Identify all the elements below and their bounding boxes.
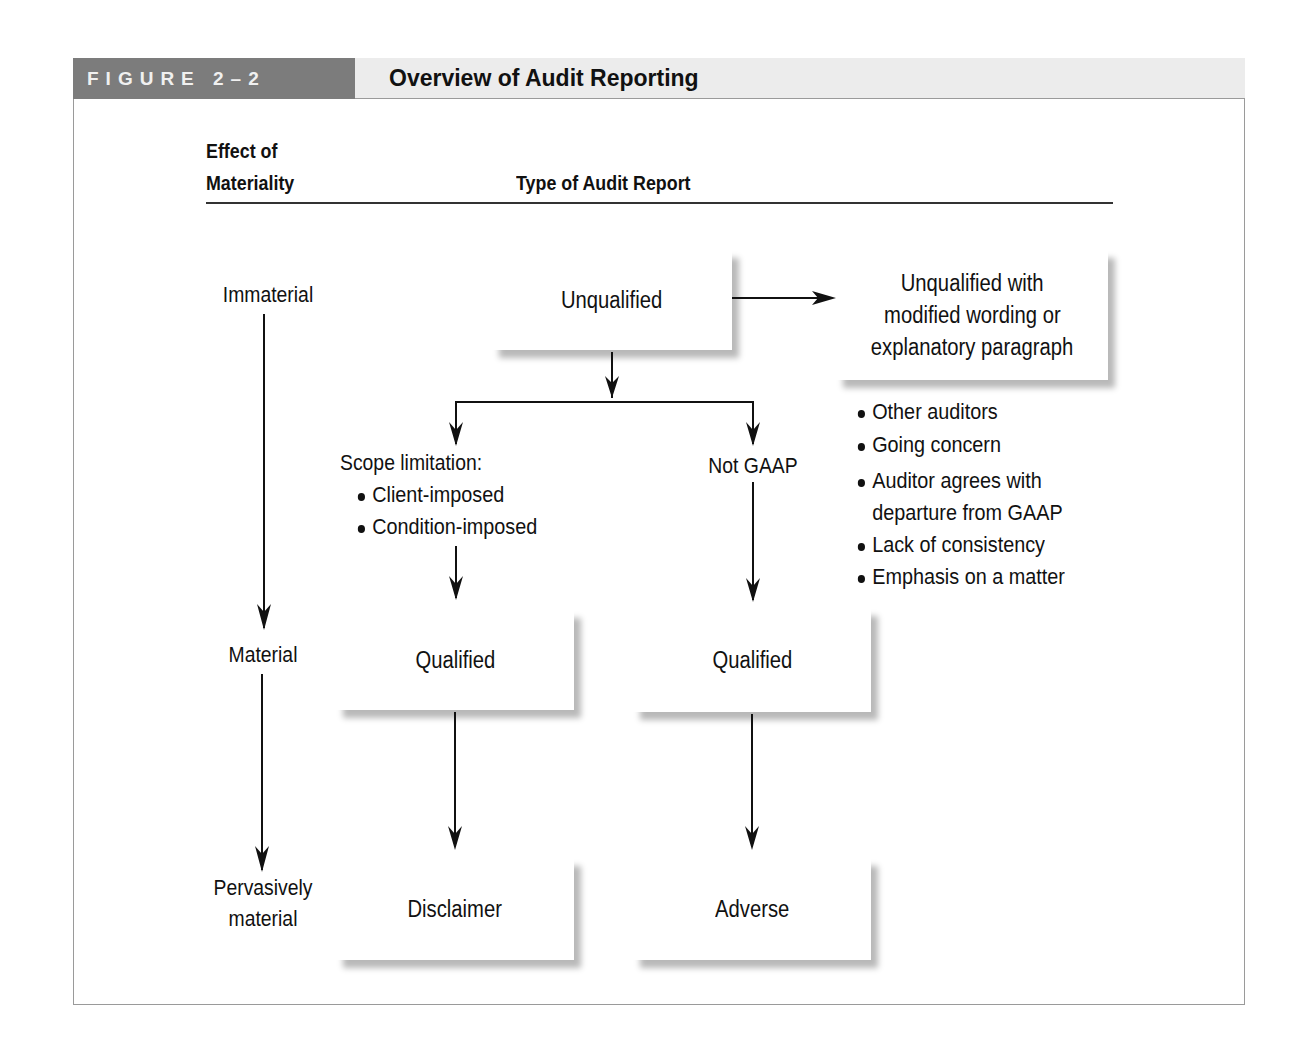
connector-arrows [0, 0, 1307, 1049]
